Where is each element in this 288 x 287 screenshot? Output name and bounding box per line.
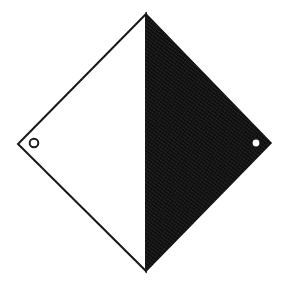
figure-canvas: [0, 0, 288, 287]
diamond-right-half-black: [146, 14, 271, 271]
left-hole-ring-icon: [30, 139, 39, 148]
right-hole-dot-icon: [253, 140, 260, 147]
diamond-figure: [0, 0, 288, 287]
